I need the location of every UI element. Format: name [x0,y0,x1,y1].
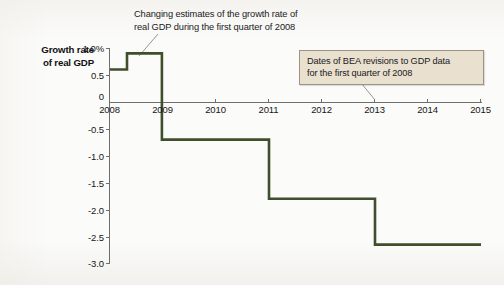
x-tick-label-2014: 2014 [407,104,448,115]
y-tick-label-7: -2.0 [62,205,104,216]
y-axis-title-line2: of real GDP [8,57,94,70]
x-tick-label-2012: 2012 [301,104,342,115]
x-tick-label-2009: 2009 [142,104,183,115]
y-tick-label-5: -1.0 [62,151,104,162]
x-tick-label-2010: 2010 [195,104,236,115]
y-tick-label-3: 0 [62,91,104,102]
callout-line1: Dates of BEA revisions to GDP data [307,55,477,67]
x-tick-label-2011: 2011 [248,104,289,115]
x-tick-label-2013: 2013 [354,104,395,115]
y-tick-label-9: -3.0 [62,258,104,269]
gdp-revision-chart: Growth rate of real GDP 1.0% 0.5 0 -0.5 … [0,0,504,285]
revision-dates-callout: Dates of BEA revisions to GDP data for t… [299,50,484,85]
top-annotation: Changing estimates of the growth rate of… [134,8,297,33]
y-tick-label-1: 1.0% [62,43,104,54]
x-tick-label-2008: 2008 [89,104,130,115]
y-tick-label-8: -2.5 [62,232,104,243]
top-annotation-line1: Changing estimates of the growth rate of [134,8,297,21]
y-tick-label-6: -1.5 [62,178,104,189]
x-tick-label-2015: 2015 [460,104,501,115]
y-tick-label-2: 0.5 [62,70,104,81]
callout-line2: for the first quarter of 2008 [307,67,477,79]
top-annotation-line2: real GDP during the first quarter of 200… [134,21,297,34]
y-tick-label-4: -0.5 [62,124,104,135]
